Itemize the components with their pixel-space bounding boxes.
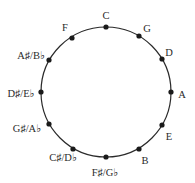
note-dot (136, 146, 141, 151)
note-label: D♯/E♭ (7, 88, 34, 99)
note-dot (136, 33, 141, 38)
note-dot (159, 56, 164, 61)
note-label: D (165, 47, 173, 58)
note-label: A♯/B♭ (17, 50, 45, 61)
note-dot (70, 146, 75, 151)
note-dot (103, 24, 108, 29)
note-dot (159, 122, 164, 127)
note-dot (168, 89, 173, 94)
circle-ring (41, 27, 171, 157)
note-label: C (102, 10, 109, 21)
note-label: E (166, 131, 172, 142)
note-dot (46, 121, 51, 126)
note-label: F♯/G♭ (92, 167, 119, 178)
note-labels: CGDAEBF♯/G♭C♯/D♭G♯/A♭D♯/E♭A♯/B♭F (7, 10, 186, 178)
note-label: F (62, 22, 68, 33)
note-dot (103, 154, 108, 159)
note-dot (69, 35, 74, 40)
note-dot (46, 57, 51, 62)
note-label: G♯/A♭ (13, 123, 41, 134)
note-label: C♯/D♭ (49, 152, 77, 163)
note-label: B (141, 155, 148, 166)
note-dot (38, 89, 43, 94)
note-label: G (143, 23, 151, 34)
note-dots (38, 24, 173, 159)
note-label: A (178, 89, 186, 100)
circle-of-fifths-diagram: CGDAEBF♯/G♭C♯/D♭G♯/A♭D♯/E♭A♯/B♭F (0, 0, 195, 183)
